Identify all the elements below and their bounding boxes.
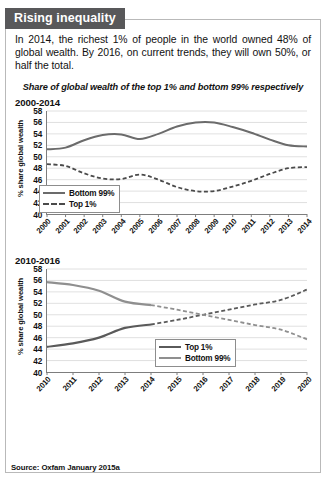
- y-tick-label: 56: [33, 118, 42, 127]
- y-tick-label: 54: [33, 129, 42, 138]
- x-tick-label: 2012: [87, 375, 105, 393]
- page-title: Rising inequality: [14, 12, 116, 25]
- legend-label: Top 1%: [69, 200, 96, 209]
- figure-content: In 2014, the richest 1% of people in the…: [6, 20, 320, 472]
- x-tick-label: 2019: [270, 375, 288, 393]
- legend-item-top1: Top 1%: [159, 342, 230, 353]
- x-tick-label: 2008: [184, 217, 202, 235]
- x-tick-label: 2016: [191, 375, 209, 393]
- y-tick-label: 40: [33, 368, 42, 377]
- legend-swatch-dashed-icon: [43, 200, 65, 208]
- y-tick-label: 44: [33, 345, 42, 354]
- legend-label: Top 1%: [185, 343, 212, 352]
- legend-swatch-solid-icon: [159, 343, 181, 351]
- chart-2-heading: 2010-2016: [15, 255, 311, 266]
- y-tick-label: 42: [33, 357, 42, 366]
- chart-2010-2016: % share global wealth 404244464850525456…: [15, 267, 311, 417]
- y-tick-label: 50: [33, 310, 42, 319]
- x-tick-label: 2001: [53, 217, 71, 235]
- x-tick-label: 2006: [147, 217, 165, 235]
- x-tick-label: 2014: [296, 217, 314, 235]
- y-tick-label: 48: [33, 322, 42, 331]
- chart-2000-2014: % share global wealth 404244464850525456…: [15, 109, 311, 249]
- x-tick-label: 2005: [128, 217, 146, 235]
- legend-item-bottom99: Bottom 99%: [43, 188, 114, 199]
- chart-2-x-tick-labels: 2010201120122013201420152016201720182019…: [46, 375, 307, 409]
- x-tick-label: 2011: [61, 375, 79, 393]
- chart-2-y-axis-title: % share global wealth: [14, 267, 28, 367]
- y-tick-label: 58: [33, 264, 42, 273]
- legend-swatch-solid-light-icon: [159, 354, 181, 362]
- figure-box: Rising inequality In 2014, the richest 1…: [0, 0, 326, 479]
- x-tick-label: 2012: [258, 217, 276, 235]
- x-tick-label: 2013: [113, 375, 131, 393]
- chart-1-legend: Bottom 99% Top 1%: [39, 185, 120, 213]
- legend-item-bottom99: Bottom 99%: [159, 353, 230, 364]
- x-tick-label: 2007: [165, 217, 183, 235]
- y-tick-label: 52: [33, 141, 42, 150]
- source-note: Source: Oxfam January 2015a: [11, 463, 120, 472]
- x-tick-label: 2014: [139, 375, 157, 393]
- x-tick-label: 2002: [72, 217, 90, 235]
- y-tick-label: 52: [33, 299, 42, 308]
- figure-title-band: Rising inequality: [5, 8, 125, 29]
- y-tick-label: 56: [33, 276, 42, 285]
- y-tick-label: 50: [33, 152, 42, 161]
- x-tick-label: 2004: [109, 217, 127, 235]
- legend-item-top1: Top 1%: [43, 199, 114, 210]
- x-tick-label: 2020: [296, 375, 314, 393]
- x-tick-label: 2011: [240, 217, 258, 235]
- chart-1-x-tick-labels: 2000200120022003200420052006200720082009…: [46, 217, 307, 251]
- chart-2-y-tick-labels: 40424446485052545658: [29, 269, 44, 373]
- series-line: [47, 324, 151, 346]
- legend-label: Bottom 99%: [69, 189, 114, 198]
- lede-paragraph: In 2014, the richest 1% of people in the…: [15, 33, 311, 73]
- chart-1-y-axis-title: % share global wealth: [14, 109, 28, 209]
- x-tick-label: 2009: [202, 217, 220, 235]
- legend-swatch-solid-icon: [43, 189, 65, 197]
- x-tick-label: 2003: [91, 217, 109, 235]
- y-tick-label: 46: [33, 175, 42, 184]
- x-tick-label: 2013: [277, 217, 295, 235]
- series-line: [47, 282, 151, 305]
- x-tick-label: 2010: [221, 217, 239, 235]
- x-tick-label: 2010: [35, 375, 53, 393]
- y-tick-label: 54: [33, 287, 42, 296]
- y-tick-label: 58: [33, 106, 42, 115]
- figure-subtitle: Share of global wealth of the top 1% and…: [15, 82, 311, 92]
- x-tick-label: 2015: [165, 375, 183, 393]
- y-tick-label: 48: [33, 164, 42, 173]
- chart-2-legend: Top 1% Bottom 99%: [155, 339, 236, 367]
- x-tick-label: 2018: [244, 375, 262, 393]
- x-tick-label: 2000: [35, 217, 53, 235]
- chart-1-heading: 2000-2014: [15, 97, 311, 108]
- y-tick-label: 46: [33, 333, 42, 342]
- x-tick-label: 2017: [217, 375, 235, 393]
- legend-label: Bottom 99%: [185, 354, 230, 363]
